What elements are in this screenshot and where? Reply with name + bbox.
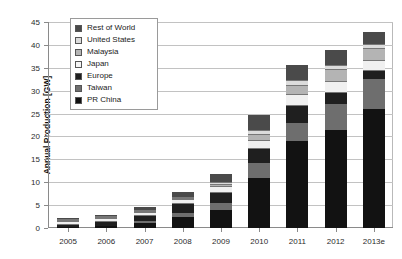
y-axis-tick-mark — [44, 91, 48, 92]
legend-item-label: United States — [87, 34, 135, 46]
x-axis-tick-label: 2013e — [355, 237, 393, 246]
stacked-bar[interactable] — [286, 65, 308, 228]
bar-segment-pr-china — [363, 109, 385, 228]
stacked-bar[interactable] — [210, 174, 232, 228]
legend-swatch-icon — [75, 85, 82, 92]
bar-segment-pr-china — [286, 141, 308, 228]
y-axis-tick-label: 25 — [0, 109, 40, 118]
bar-segment-taiwan — [286, 123, 308, 141]
bar-group: 2009 — [202, 22, 240, 228]
stacked-bar[interactable] — [172, 192, 194, 228]
stacked-bar[interactable] — [57, 218, 79, 228]
bar-segment-japan — [248, 140, 270, 150]
bar-segment-rest-of-world — [363, 32, 385, 44]
x-axis-tick-label: 2009 — [202, 237, 240, 246]
bar-group: 2012 — [317, 22, 355, 228]
y-axis-tick-mark — [44, 68, 48, 69]
bar-segment-taiwan — [363, 79, 385, 109]
bar-group: 2011 — [278, 22, 316, 228]
legend-swatch-icon — [75, 37, 82, 44]
legend-item[interactable]: Japan — [75, 58, 153, 70]
y-axis-tick-label: 10 — [0, 178, 40, 187]
y-axis-tick-mark — [44, 45, 48, 46]
x-axis-tick-mark — [183, 228, 184, 232]
x-axis-tick-mark — [297, 228, 298, 232]
bar-segment-europe — [363, 71, 385, 80]
x-axis-tick-mark — [374, 228, 375, 232]
bar-segment-rest-of-world — [325, 50, 347, 65]
y-axis-tick-label: 35 — [0, 63, 40, 72]
bar-segment-malaysia — [286, 86, 308, 95]
y-axis-tick-mark — [44, 114, 48, 115]
y-axis-tick-mark — [44, 228, 48, 229]
legend-item[interactable]: United States — [75, 34, 153, 46]
legend-item[interactable]: Europe — [75, 70, 153, 82]
bar-group: 2008 — [164, 22, 202, 228]
stacked-bar[interactable] — [134, 207, 156, 228]
bar-segment-pr-china — [325, 130, 347, 228]
y-axis-tick-label: 45 — [0, 18, 40, 27]
stacked-bar[interactable] — [248, 115, 270, 228]
y-axis-tick-mark — [44, 136, 48, 137]
bar-segment-taiwan — [248, 163, 270, 178]
bar-segment-rest-of-world — [248, 115, 270, 130]
bar-segment-europe — [286, 106, 308, 122]
chart-legend: Rest of WorldUnited StatesMalaysiaJapanE… — [70, 18, 158, 110]
y-axis-tick-label: 30 — [0, 86, 40, 95]
x-axis-tick-label: 2006 — [87, 237, 125, 246]
legend-swatch-icon — [75, 61, 82, 68]
bar-segment-europe — [210, 193, 232, 203]
y-axis-tick-label: 40 — [0, 40, 40, 49]
y-axis-tick-label: 15 — [0, 155, 40, 164]
stacked-bar[interactable] — [95, 215, 117, 228]
stacked-bar-chart: Annual Production [GW] 05101520253035404… — [0, 0, 402, 259]
legend-item-label: PR China — [87, 94, 121, 106]
y-axis-tick-mark — [44, 205, 48, 206]
bar-segment-pr-china — [248, 178, 270, 228]
legend-item-label: Europe — [87, 70, 113, 82]
bar-segment-pr-china — [210, 210, 232, 228]
x-axis-tick-label: 2010 — [240, 237, 278, 246]
bar-segment-rest-of-world — [286, 65, 308, 80]
stacked-bar[interactable] — [325, 50, 347, 228]
bar-segment-japan — [363, 60, 385, 71]
x-axis-tick-mark — [106, 228, 107, 232]
x-axis-tick-mark — [221, 228, 222, 232]
x-axis-tick-mark — [336, 228, 337, 232]
bar-group: 2013e — [355, 22, 393, 228]
legend-swatch-icon — [75, 97, 82, 104]
y-axis-tick-label: 0 — [0, 224, 40, 233]
legend-swatch-icon — [75, 49, 82, 56]
bar-segment-malaysia — [325, 70, 347, 81]
legend-swatch-icon — [75, 73, 82, 80]
bar-group: 2010 — [240, 22, 278, 228]
bar-segment-pr-china — [172, 217, 194, 228]
bar-segment-japan — [210, 186, 232, 193]
legend-item[interactable]: Malaysia — [75, 46, 153, 58]
y-axis-tick-label: 20 — [0, 132, 40, 141]
y-axis-tick-mark — [44, 159, 48, 160]
y-axis-label-wrap: Annual Production [GW] — [0, 22, 16, 228]
x-axis-tick-label: 2011 — [278, 237, 316, 246]
stacked-bar[interactable] — [363, 32, 385, 228]
legend-item-label: Malaysia — [87, 46, 119, 58]
legend-item[interactable]: Rest of World — [75, 22, 153, 34]
legend-item-label: Japan — [87, 58, 109, 70]
bar-segment-taiwan — [325, 104, 347, 129]
bar-segment-europe — [172, 204, 194, 213]
x-axis-tick-label: 2008 — [164, 237, 202, 246]
bar-segment-japan — [286, 94, 308, 106]
bar-segment-europe — [248, 149, 270, 163]
x-axis-tick-label: 2007 — [125, 237, 163, 246]
legend-item[interactable]: PR China — [75, 94, 153, 106]
x-axis-tick-mark — [68, 228, 69, 232]
y-axis-tick-mark — [44, 182, 48, 183]
x-axis-tick-label: 2012 — [317, 237, 355, 246]
y-axis-tick-mark — [44, 22, 48, 23]
x-axis-tick-mark — [259, 228, 260, 232]
x-axis-tick-mark — [145, 228, 146, 232]
y-axis-tick-label: 5 — [0, 201, 40, 210]
x-axis-tick-label: 2005 — [49, 237, 87, 246]
bar-segment-japan — [325, 81, 347, 93]
legend-item[interactable]: Taiwan — [75, 82, 153, 94]
